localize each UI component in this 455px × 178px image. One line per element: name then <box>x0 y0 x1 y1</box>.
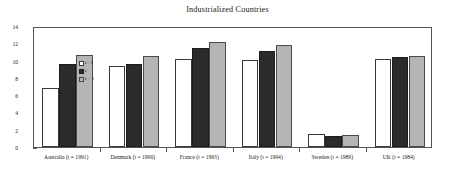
plot-area: t - 1tt + 1 <box>33 27 432 148</box>
bar-group <box>167 28 234 147</box>
bar-group <box>34 28 101 147</box>
x-axis-tick-label: Australia (t = 1991) <box>44 154 88 160</box>
y-axis-tick <box>33 148 37 149</box>
legend-item: t + 1 <box>79 74 139 82</box>
bar <box>59 64 76 147</box>
bar <box>175 59 192 147</box>
bar <box>276 45 293 147</box>
y-axis-tick-label: 12 <box>0 41 18 47</box>
legend-item-label: t + 1 <box>85 75 94 83</box>
bar <box>392 57 409 147</box>
chart-title: Industrialized Countries <box>0 5 455 14</box>
bar-group <box>300 28 367 147</box>
bar <box>192 48 209 147</box>
bar <box>308 134 325 147</box>
legend-swatch-icon <box>79 77 84 82</box>
x-axis-tick-label: Sweden (t = 1989) <box>311 154 353 160</box>
bar-group <box>101 28 168 147</box>
bar-group <box>367 28 434 147</box>
y-axis-tick-label: 6 <box>0 93 18 99</box>
y-axis-tick-label: 0 <box>0 145 18 151</box>
bars-layer <box>34 28 431 147</box>
x-axis-tick-label: Italy (t = 1994) <box>249 154 283 160</box>
y-axis-tick-label: 2 <box>0 128 18 134</box>
x-axis-tick-label: Denmark (t = 1990) <box>110 154 155 160</box>
bar <box>42 88 59 147</box>
x-axis-group-separator <box>366 148 367 152</box>
x-axis-group-separator <box>233 148 234 152</box>
y-axis-tick-label: 4 <box>0 110 18 116</box>
y-axis-tick-label: 10 <box>0 59 18 65</box>
x-axis-group-separator <box>100 148 101 152</box>
x-axis-group-separator <box>166 148 167 152</box>
legend-item: t - 1 <box>79 58 139 66</box>
bar <box>143 56 160 147</box>
x-axis-group-separator <box>299 148 300 152</box>
bar <box>242 60 259 147</box>
bar <box>375 59 392 147</box>
bar <box>325 136 342 147</box>
bar <box>342 135 359 147</box>
y-axis-tick-label: 8 <box>0 76 18 82</box>
bar <box>259 51 276 147</box>
chart-figure: Industrialized Countries 02468101214 t -… <box>0 0 455 178</box>
bar <box>409 56 426 147</box>
x-axis-tick-label: UK (t = 1984) <box>383 154 415 160</box>
bar <box>209 42 226 147</box>
chart-legend: t - 1tt + 1 <box>79 58 139 82</box>
x-axis-tick-label: France (t = 1993) <box>180 154 219 160</box>
bar-group <box>234 28 301 147</box>
y-axis-tick-label: 14 <box>0 24 18 30</box>
legend-item: t <box>79 66 139 74</box>
